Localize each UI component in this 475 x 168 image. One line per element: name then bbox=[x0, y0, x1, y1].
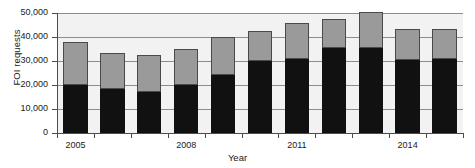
y-axis-tick-label: 0 bbox=[2, 127, 48, 137]
y-axis-tick bbox=[52, 109, 57, 110]
bar-2006 bbox=[100, 53, 124, 133]
bar-2014 bbox=[395, 29, 419, 133]
y-axis-line bbox=[57, 13, 58, 134]
bar-2008 bbox=[174, 49, 198, 133]
bar-segment-lower bbox=[322, 48, 346, 133]
bar-segment-upper bbox=[359, 12, 383, 48]
x-axis-tick bbox=[463, 133, 464, 138]
x-axis-tick-label: 2005 bbox=[55, 140, 95, 150]
y-axis-tick-label: 20,000 bbox=[2, 79, 48, 89]
bar-2011 bbox=[285, 23, 309, 133]
y-axis-tick bbox=[52, 13, 57, 14]
bar-segment-upper bbox=[137, 55, 161, 92]
x-axis-tick-label: 2011 bbox=[277, 140, 317, 150]
bar-segment-upper bbox=[63, 42, 87, 85]
x-axis-tick bbox=[426, 133, 427, 138]
bar-segment-upper bbox=[322, 19, 346, 48]
y-axis-tick bbox=[52, 37, 57, 38]
y-axis-tick-label: 40,000 bbox=[2, 31, 48, 41]
y-axis-tick-label: 10,000 bbox=[2, 103, 48, 113]
x-axis-tick bbox=[315, 133, 316, 138]
x-axis-tick bbox=[278, 133, 279, 138]
x-axis-tick-label: 2008 bbox=[166, 140, 206, 150]
x-axis-line bbox=[57, 133, 464, 134]
bar-segment-upper bbox=[248, 31, 272, 61]
gridline bbox=[57, 13, 463, 14]
x-axis-tick bbox=[57, 133, 58, 138]
bar-segment-lower bbox=[285, 59, 309, 133]
x-axis-tick bbox=[352, 133, 353, 138]
bar-segment-lower bbox=[63, 85, 87, 133]
x-axis-tick bbox=[389, 133, 390, 138]
x-axis-tick-label: 2014 bbox=[388, 140, 428, 150]
y-axis-tick bbox=[52, 61, 57, 62]
bar-segment-upper bbox=[285, 23, 309, 59]
x-axis-tick bbox=[168, 133, 169, 138]
y-axis-tick bbox=[52, 85, 57, 86]
x-axis-tick bbox=[242, 133, 243, 138]
bar-segment-lower bbox=[248, 61, 272, 133]
bar-2007 bbox=[137, 55, 161, 133]
x-axis-tick bbox=[205, 133, 206, 138]
x-axis-tick bbox=[131, 133, 132, 138]
foi-requests-bar-chart: FOI requests 010,00020,00030,00040,00050… bbox=[0, 0, 475, 168]
bar-segment-lower bbox=[395, 60, 419, 133]
bar-segment-upper bbox=[395, 29, 419, 60]
bar-segment-upper bbox=[211, 37, 235, 75]
bar-segment-lower bbox=[137, 92, 161, 133]
x-axis-tick bbox=[94, 133, 95, 138]
bar-segment-lower bbox=[359, 48, 383, 133]
bar-2005 bbox=[63, 42, 87, 133]
bar-segment-upper bbox=[432, 29, 456, 59]
bar-segment-lower bbox=[432, 59, 456, 133]
y-axis-tick-label: 50,000 bbox=[2, 7, 48, 17]
bar-segment-lower bbox=[100, 89, 124, 133]
bar-2013 bbox=[359, 12, 383, 133]
bar-2009 bbox=[211, 37, 235, 133]
x-axis-title: Year bbox=[0, 152, 475, 163]
plot-area bbox=[57, 13, 463, 133]
y-axis-tick-label: 30,000 bbox=[2, 55, 48, 65]
bar-segment-upper bbox=[174, 49, 198, 85]
bar-segment-upper bbox=[100, 53, 124, 89]
bar-segment-lower bbox=[211, 75, 235, 133]
bar-2015 bbox=[432, 29, 456, 133]
bar-segment-lower bbox=[174, 85, 198, 133]
bar-2010 bbox=[248, 31, 272, 133]
bar-2012 bbox=[322, 19, 346, 133]
